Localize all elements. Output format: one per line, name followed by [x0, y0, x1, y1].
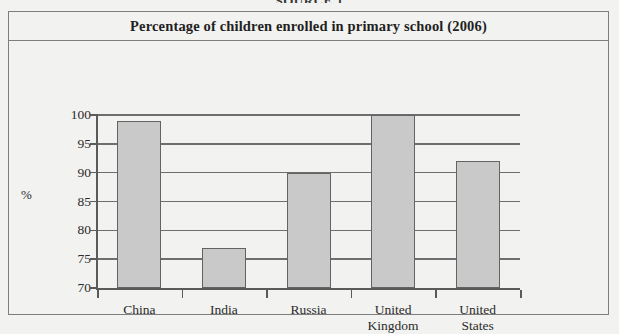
x-axis-tick-mark	[435, 290, 437, 298]
y-axis-tick-label: 85	[78, 194, 92, 210]
y-axis-tick-label: 100	[71, 107, 91, 123]
gridline	[98, 143, 520, 145]
x-axis-line	[96, 288, 520, 290]
chart-title: Percentage of children enrolled in prima…	[130, 18, 487, 35]
x-axis-tick-mark	[97, 290, 99, 298]
bar	[456, 161, 500, 288]
figure-caption: SOURCE 1	[0, 0, 619, 3]
x-axis-category-label: United States	[435, 302, 520, 334]
bar	[117, 121, 161, 288]
y-axis-tick-label: 70	[78, 280, 92, 296]
y-axis-tick-label: 80	[78, 222, 92, 238]
x-axis-tick-mark	[520, 290, 522, 298]
plot-area: % 100959085807570 ChinaIndiaRussiaUnited…	[9, 40, 608, 314]
x-axis-category-label: India	[182, 302, 267, 318]
x-axis-category-label: Russia	[266, 302, 351, 318]
y-axis-label: %	[21, 187, 32, 203]
gridline	[98, 114, 520, 116]
x-axis-tick-mark	[182, 290, 184, 298]
bar	[371, 115, 415, 288]
x-axis-tick-mark	[351, 290, 353, 298]
y-axis-tick-label: 75	[78, 251, 92, 267]
y-axis-tick-label: 95	[78, 136, 92, 152]
chart-frame: Percentage of children enrolled in prima…	[8, 11, 609, 315]
y-axis-tick-label: 90	[78, 165, 92, 181]
y-axis-tick-labels: 100959085807570	[47, 40, 91, 314]
x-axis-category-label: United Kingdom	[351, 302, 436, 334]
bar	[287, 173, 331, 288]
chart-title-band: Percentage of children enrolled in prima…	[9, 12, 608, 41]
bar	[202, 248, 246, 288]
x-axis-tick-mark	[266, 290, 268, 298]
x-axis-category-label: China	[97, 302, 182, 318]
y-axis-line	[96, 114, 98, 290]
